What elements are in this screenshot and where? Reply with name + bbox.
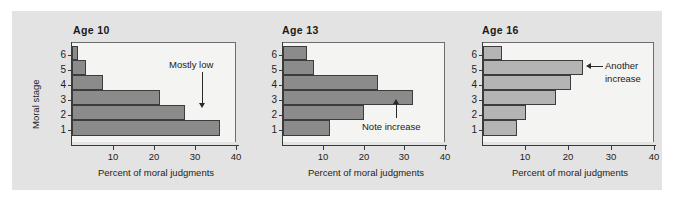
bar-stage-1	[483, 120, 517, 136]
y-tick-3: 3	[263, 95, 277, 105]
x-tick-30: 30	[600, 152, 622, 162]
annotation-arrow-line-mostly-low	[202, 72, 203, 104]
chart-age-13: Age 13 6 5 4 3 2 1 10 20 30 40 P	[238, 11, 450, 190]
x-tick-30: 30	[393, 152, 415, 162]
bar-stage-2	[72, 105, 185, 120]
y-tick-4: 4	[263, 80, 277, 90]
y-axis-line-age-13	[282, 42, 283, 146]
y-tick-2: 2	[263, 110, 277, 120]
y-tick-3: 3	[52, 95, 66, 105]
x-tick-40: 40	[643, 152, 665, 162]
bar-stage-4	[72, 75, 103, 90]
bar-stage-3	[483, 90, 556, 105]
y-tick-5: 5	[52, 65, 66, 75]
bar-stage-6	[483, 46, 502, 60]
y-tick-5: 5	[463, 65, 477, 75]
x-tickmark-40	[236, 146, 237, 150]
chart-age-10: Age 10 Moral stage 6 5 4 3 2 1	[12, 11, 244, 190]
bar-stage-1	[283, 120, 330, 136]
x-tick-10: 10	[312, 152, 334, 162]
figure-panel: Age 10 Moral stage 6 5 4 3 2 1	[12, 11, 662, 190]
chart-title-age-16: Age 16	[482, 24, 519, 36]
x-tickmark-30	[195, 146, 196, 150]
y-tick-2: 2	[52, 110, 66, 120]
plot-area-age-16	[483, 42, 654, 142]
x-tickmark-40	[654, 146, 655, 150]
annotation-arrow-line-another-increase	[591, 66, 603, 67]
x-tickmark-10	[323, 146, 324, 150]
x-tickmark-20	[154, 146, 155, 150]
chart-title-age-10: Age 10	[73, 24, 110, 36]
y-tick-6: 6	[263, 50, 277, 60]
chart-age-16: Age 16 6 5 4 3 2 1 10 20 30 40 P	[452, 11, 662, 190]
y-tick-5: 5	[263, 65, 277, 75]
bar-stage-6	[72, 46, 78, 60]
annotation-another-increase-line1: Another	[605, 60, 638, 71]
bar-stage-5	[72, 60, 86, 75]
y-tick-4: 4	[52, 80, 66, 90]
y-tick-1: 1	[52, 125, 66, 135]
annotation-another-increase-line2: increase	[605, 73, 641, 84]
bar-stage-6	[283, 46, 307, 60]
x-tick-20: 20	[557, 152, 579, 162]
y-axis-line-age-16	[482, 42, 483, 146]
bar-stage-4	[483, 75, 571, 90]
x-tickmark-30	[404, 146, 405, 150]
annotation-mostly-low: Mostly low	[169, 59, 213, 70]
x-tick-20: 20	[143, 152, 165, 162]
x-tick-10: 10	[514, 152, 536, 162]
bar-stage-4	[283, 75, 378, 90]
y-tick-1: 1	[463, 125, 477, 135]
y-tick-1: 1	[263, 125, 277, 135]
x-tickmark-30	[611, 146, 612, 150]
annotation-note-increase: Note increase	[362, 121, 421, 132]
x-tick-20: 20	[353, 152, 375, 162]
y-tick-4: 4	[463, 80, 477, 90]
y-tick-6: 6	[463, 50, 477, 60]
bar-stage-5	[483, 60, 583, 75]
x-tickmark-10	[113, 146, 114, 150]
x-tick-10: 10	[102, 152, 124, 162]
x-tick-30: 30	[184, 152, 206, 162]
y-axis-line-age-10	[71, 42, 72, 146]
y-tick-2: 2	[463, 110, 477, 120]
x-axis-label-age-13: Percent of moral judgments	[286, 167, 446, 178]
y-tick-6: 6	[52, 50, 66, 60]
bar-stage-1	[72, 120, 220, 136]
chart-title-age-13: Age 13	[282, 24, 319, 36]
plot-area-age-10	[72, 42, 236, 142]
x-tickmark-20	[364, 146, 365, 150]
y-tick-3: 3	[463, 95, 477, 105]
x-axis-label-age-10: Percent of moral judgments	[76, 167, 236, 178]
bar-stage-3	[72, 90, 160, 105]
bar-stage-5	[283, 60, 314, 75]
bar-stage-2	[483, 105, 526, 120]
x-axis-label-age-16: Percent of moral judgments	[490, 167, 650, 178]
annotation-arrow-head-mostly-low	[199, 103, 205, 108]
x-tickmark-20	[568, 146, 569, 150]
x-tickmark-10	[525, 146, 526, 150]
annotation-arrow-line-note-increase	[396, 104, 397, 118]
x-tickmark-40	[445, 146, 446, 150]
y-axis-label-age-10: Moral stage	[30, 79, 41, 129]
bar-stage-2	[283, 105, 364, 120]
